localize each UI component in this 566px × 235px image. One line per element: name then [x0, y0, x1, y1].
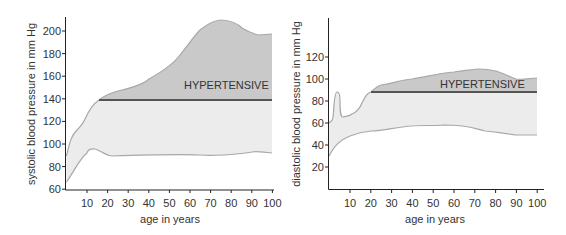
- svg-text:90: 90: [510, 197, 522, 209]
- blood-pressure-charts: HYPERTENSIVE 200 180 160 140 120 100 80 …: [0, 0, 566, 235]
- diastolic-y-label: diastolic blood pressure in mm Hg: [290, 21, 302, 187]
- diastolic-normal-region: [329, 92, 537, 156]
- diastolic-chart: HYPERTENSIVE 120 100 80 60 40 20: [290, 18, 546, 225]
- svg-text:60: 60: [184, 197, 196, 209]
- systolic-normal-region: [67, 100, 273, 182]
- svg-text:80: 80: [49, 161, 61, 173]
- svg-text:100: 100: [306, 73, 324, 85]
- diastolic-x-label: age in years: [405, 213, 465, 225]
- diastolic-hypertensive-label: HYPERTENSIVE: [440, 78, 525, 90]
- svg-text:10: 10: [344, 197, 356, 209]
- svg-text:70: 70: [469, 197, 481, 209]
- svg-text:30: 30: [385, 197, 397, 209]
- svg-text:20: 20: [101, 197, 113, 209]
- systolic-y-label: systolic blood pressure in mm Hg: [25, 23, 37, 185]
- svg-text:20: 20: [365, 197, 377, 209]
- svg-text:30: 30: [122, 197, 134, 209]
- svg-text:200: 200: [43, 25, 61, 37]
- svg-text:50: 50: [163, 197, 175, 209]
- svg-text:90: 90: [246, 197, 258, 209]
- systolic-chart: HYPERTENSIVE 200 180 160 140 120 100 80 …: [25, 17, 282, 225]
- systolic-y-axis: 200 180 160 140 120 100 80 60: [43, 25, 66, 195]
- svg-text:100: 100: [263, 197, 281, 209]
- systolic-x-label: age in years: [140, 213, 200, 225]
- svg-text:60: 60: [312, 117, 324, 129]
- diastolic-y-axis: 120 100 80 60 40 20: [306, 51, 329, 173]
- svg-text:80: 80: [312, 95, 324, 107]
- svg-text:120: 120: [43, 115, 61, 127]
- svg-text:140: 140: [43, 93, 61, 105]
- svg-text:80: 80: [489, 197, 501, 209]
- svg-text:60: 60: [448, 197, 460, 209]
- svg-text:80: 80: [225, 197, 237, 209]
- svg-text:20: 20: [312, 161, 324, 173]
- systolic-x-axis: 10 20 30 40 50 60 70 80 90 100: [81, 190, 282, 209]
- svg-text:40: 40: [143, 197, 155, 209]
- systolic-hypertensive-label: HYPERTENSIVE: [184, 79, 269, 91]
- svg-text:100: 100: [528, 197, 546, 209]
- svg-text:40: 40: [312, 139, 324, 151]
- diastolic-x-axis: 10 20 30 40 50 60 70 80 90 100: [344, 190, 547, 210]
- svg-text:60: 60: [49, 183, 61, 195]
- svg-text:70: 70: [204, 197, 216, 209]
- svg-text:160: 160: [43, 70, 61, 82]
- svg-text:100: 100: [43, 138, 61, 150]
- svg-text:180: 180: [43, 48, 61, 60]
- svg-text:40: 40: [406, 197, 418, 209]
- svg-text:10: 10: [81, 197, 93, 209]
- svg-text:120: 120: [306, 51, 324, 63]
- svg-text:50: 50: [427, 197, 439, 209]
